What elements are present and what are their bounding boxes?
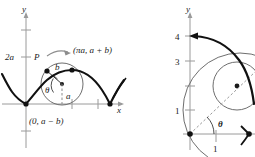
- left-y-tick-label-2a: 2a: [5, 52, 15, 62]
- theta-label-right: θ: [218, 119, 223, 129]
- right-y-label-4: 4: [175, 32, 180, 42]
- theta-arc-right: [207, 117, 214, 134]
- right-x-label-1: 1: [213, 144, 218, 154]
- direction-arrow: [113, 78, 126, 98]
- cusp-point-right: [107, 101, 112, 106]
- cycloid-curve-left: [2, 70, 124, 104]
- cusp-point-origin: [23, 101, 28, 106]
- theta-label-left: θ: [45, 85, 50, 95]
- radius-b-label: b: [55, 62, 60, 72]
- point-P-label: P: [33, 52, 40, 62]
- radius-a-label: a: [66, 91, 71, 101]
- figure-root: 2a P (πa, a + b) (0, a − b) a b θ y x: [0, 0, 255, 157]
- right-y-label-3: 3: [175, 57, 180, 67]
- right-y-label-1: 1: [175, 106, 180, 116]
- rolling-circle-right: [213, 62, 255, 110]
- origin-point-label: (0, a − b): [29, 116, 64, 126]
- theta-arc-left: [51, 79, 53, 93]
- left-y-axis-label: y: [21, 4, 26, 14]
- right-figure-svg: y 4 3 1 1 θ: [128, 0, 255, 157]
- point-P-dot: [44, 68, 49, 73]
- left-figure-panel: 2a P (πa, a + b) (0, a − b) a b θ y x: [0, 0, 128, 157]
- right-y-axis-label: y: [185, 4, 190, 14]
- top-point-label: (πa, a + b): [73, 45, 112, 55]
- left-x-axis-label: x: [116, 105, 121, 115]
- left-figure-svg: 2a P (πa, a + b) (0, a − b) a b θ y x: [0, 0, 128, 157]
- origin-dot-right: [187, 131, 193, 137]
- rotation-arrowhead: [64, 51, 71, 56]
- right-figure-panel: y 4 3 1 1 θ: [128, 0, 255, 157]
- cycloid-curve-right: [194, 36, 254, 104]
- cusp-stroke-lower-right: [241, 134, 249, 145]
- cusp-stroke-upper-right: [241, 126, 249, 134]
- point-top-dot: [69, 67, 74, 72]
